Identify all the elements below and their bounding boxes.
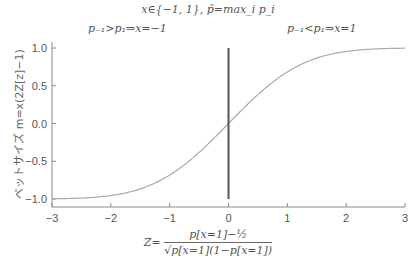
x-label-fraction: p[x=1]−½ √p[x=1](1−p[x=1]) [164, 228, 272, 257]
x-tick-label: −2 [105, 212, 118, 224]
y-tick-label: −0.5 [25, 155, 47, 167]
x-tick-label: −3 [46, 212, 59, 224]
x-tick-label: −1 [163, 212, 176, 224]
x-tick-label: 3 [402, 212, 408, 224]
x-tick-label: 0 [225, 212, 231, 224]
y-tick-label: −1.0 [25, 193, 47, 205]
x-label-numerator: p[x=1]−½ [164, 228, 272, 243]
y-tick-label: 1.0 [32, 42, 47, 54]
y-tick-label: 0.0 [32, 118, 47, 130]
x-tick-label: 2 [343, 212, 349, 224]
x-axis-label: Z= p[x=1]−½ √p[x=1](1−p[x=1]) [0, 228, 416, 257]
x-label-lhs: Z= [144, 236, 161, 249]
x-label-denominator: √p[x=1](1−p[x=1]) [164, 243, 272, 257]
x-tick-label: 1 [284, 212, 290, 224]
y-tick-label: 0.5 [32, 80, 47, 92]
